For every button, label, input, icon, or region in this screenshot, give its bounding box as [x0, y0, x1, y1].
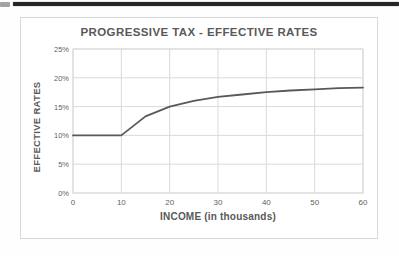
- x-tick-label: 60: [359, 198, 368, 207]
- x-tick-label: 0: [71, 198, 75, 207]
- x-axis-tick-labels: 0102030405060: [73, 198, 363, 210]
- plot-area: [73, 49, 363, 193]
- y-tick-label: 15%: [21, 102, 69, 111]
- y-axis-tick-labels: 0%5%10%15%20%25%: [21, 18, 69, 238]
- x-tick-label: 30: [214, 198, 223, 207]
- top-divider-bar: [13, 2, 399, 6]
- y-tick-label: 5%: [21, 160, 69, 169]
- y-tick-label: 0%: [21, 189, 69, 198]
- x-tick-label: 50: [310, 198, 319, 207]
- top-left-fragment: [0, 2, 10, 7]
- y-tick-label: 25%: [21, 45, 69, 54]
- y-tick-label: 20%: [21, 73, 69, 82]
- chart-title: PROGRESSIVE TAX - EFFECTIVE RATES: [21, 26, 377, 38]
- page: PROGRESSIVE TAX - EFFECTIVE RATES EFFECT…: [0, 0, 399, 256]
- x-tick-label: 20: [165, 198, 174, 207]
- x-axis-title: INCOME (in thousands): [73, 211, 363, 222]
- plot-svg: [73, 49, 363, 193]
- x-tick-label: 10: [117, 198, 126, 207]
- y-tick-label: 10%: [21, 131, 69, 140]
- chart-container[interactable]: PROGRESSIVE TAX - EFFECTIVE RATES EFFECT…: [20, 17, 378, 239]
- x-tick-label: 40: [262, 198, 271, 207]
